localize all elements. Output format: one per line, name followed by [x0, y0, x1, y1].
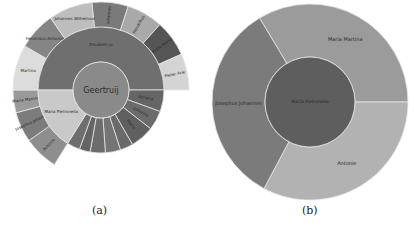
outer-ring-label-antonie: Antonie	[337, 160, 356, 166]
sunburst-chart-b: Maria MartinaAntonieJosephus JohannesMar…	[212, 4, 408, 200]
caption-a: (a)	[92, 204, 107, 217]
caption-b: (b)	[302, 204, 318, 217]
root-label: Maria Pietronella	[291, 99, 329, 104]
middle-ring-label-maria-pietronella: Maria Pietronella	[44, 109, 78, 114]
outer-ring-label-hendrikus-antonius: Hendrikus Antonius	[26, 36, 65, 41]
outer-ring-label-maria-martina: Maria Martina	[328, 36, 363, 42]
middle-ring-label-elisabeth-jo: Elisabeth Jo	[89, 42, 113, 47]
outer-ring-label-josephus-johannes: Josephus Johannes	[214, 100, 262, 107]
root-label: Geertruij	[83, 86, 118, 95]
outer-ring-label-johannes-wilhelmus: Johannes Wilhelmus	[53, 16, 94, 21]
sunburst-figure: JohannesHendrikusAnna MariaPieter ArieAn…	[0, 0, 414, 233]
sunburst-chart-a: JohannesHendrikusAnna MariaPieter ArieAn…	[12, 2, 189, 165]
outer-ring-label-martina: Martina	[20, 68, 36, 73]
